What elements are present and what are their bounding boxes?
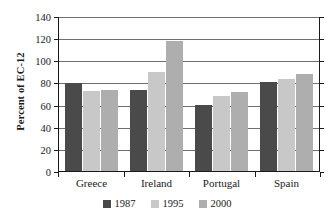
- x-axis-label-ireland: Ireland: [124, 177, 189, 189]
- bar-greece-1995: [83, 91, 100, 171]
- x-axis-label-portugal: Portugal: [189, 177, 254, 189]
- bar-portugal-1987: [195, 105, 212, 171]
- x-axis-label-spain: Spain: [254, 177, 319, 189]
- y-tick-label-20: 20: [41, 144, 52, 155]
- y-axis-title: Percent of EC-12: [15, 22, 26, 162]
- legend-item-2000[interactable]: 2000: [199, 198, 232, 209]
- y-tick-label-100: 100: [35, 56, 51, 67]
- legend-label-1987: 1987: [115, 198, 136, 209]
- y-tick-right-40: [320, 128, 324, 129]
- y-tick-right-100: [320, 61, 324, 62]
- legend-swatch-1995: [151, 200, 159, 208]
- bar-ireland-1995: [148, 72, 165, 171]
- bar-group-ireland: [124, 17, 189, 171]
- y-tick-right-80: [320, 83, 324, 84]
- legend-label-2000: 2000: [211, 198, 232, 209]
- bar-spain-1995: [278, 79, 295, 171]
- legend-item-1995[interactable]: 1995: [151, 198, 184, 209]
- x-axis-labels: GreeceIrelandPortugalSpain: [59, 177, 319, 189]
- bars-layer: [59, 17, 319, 171]
- y-tick-label-40: 40: [41, 122, 52, 133]
- legend-item-1987[interactable]: 1987: [103, 198, 136, 209]
- bar-chart: Percent of EC-12 140120100806040200 Gree…: [0, 0, 334, 221]
- x-axis-tick-4: [320, 172, 321, 177]
- y-tick-label-120: 120: [35, 34, 51, 45]
- bar-greece-1987: [65, 83, 82, 171]
- bar-group-greece: [59, 17, 124, 171]
- chart-legend: 198719952000: [0, 198, 334, 209]
- bar-portugal-1995: [213, 96, 230, 171]
- y-tick-right-120: [320, 39, 324, 40]
- x-axis-label-greece: Greece: [59, 177, 124, 189]
- y-axis-right-spine: [319, 17, 320, 172]
- bar-spain-2000: [296, 74, 313, 171]
- y-tick-right-60: [320, 106, 324, 107]
- y-tick-right-20: [320, 150, 324, 151]
- plot-area: 140120100806040200: [58, 17, 320, 172]
- bar-portugal-2000: [231, 92, 248, 171]
- bar-group-portugal: [189, 17, 254, 171]
- y-tick-label-140: 140: [35, 12, 51, 23]
- y-tick-label-80: 80: [41, 78, 52, 89]
- bar-group-spain: [254, 17, 319, 171]
- legend-swatch-2000: [199, 200, 207, 208]
- bar-ireland-2000: [166, 41, 183, 171]
- bar-spain-1987: [260, 82, 277, 171]
- legend-swatch-1987: [103, 200, 111, 208]
- bar-ireland-1987: [130, 90, 147, 171]
- y-tick-right-140: [320, 17, 324, 18]
- y-tick-label-60: 60: [41, 100, 52, 111]
- legend-label-1995: 1995: [163, 198, 184, 209]
- y-tick-label-0: 0: [46, 167, 51, 178]
- bar-greece-2000: [101, 90, 118, 171]
